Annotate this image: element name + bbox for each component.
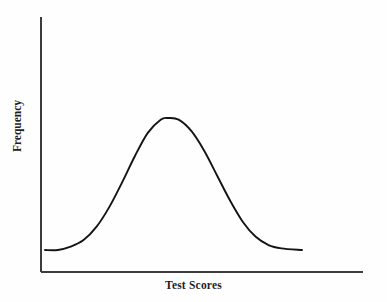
x-axis-label: Test Scores (0, 279, 387, 291)
bell-curve-line (45, 118, 302, 250)
chart-container: Frequency Test Scores (0, 0, 387, 302)
chart-plot-area (0, 0, 387, 302)
